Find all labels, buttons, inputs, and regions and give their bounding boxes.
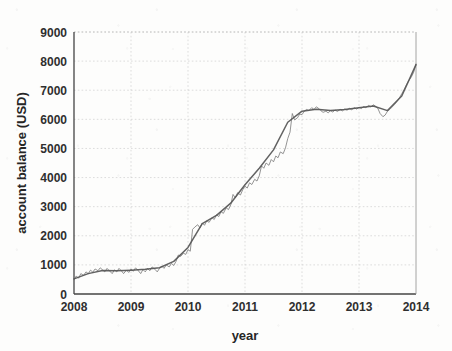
y-tick-label: 7000 bbox=[40, 84, 67, 98]
x-tick-label: 2013 bbox=[346, 300, 373, 314]
x-tick-label: 2012 bbox=[289, 300, 316, 314]
y-tick-label: 6000 bbox=[40, 113, 67, 127]
x-tick-label: 2008 bbox=[61, 300, 88, 314]
gridlines bbox=[74, 32, 416, 294]
y-tick-label: 1000 bbox=[40, 258, 67, 272]
y-axis-title: account balance (USD) bbox=[14, 92, 29, 234]
y-tick-label: 5000 bbox=[40, 142, 67, 156]
x-axis-tick-labels: 2008200920102011201220132014 bbox=[61, 300, 430, 314]
data-series-layer bbox=[74, 64, 416, 280]
x-tick-label: 2014 bbox=[403, 300, 430, 314]
y-tick-label: 2000 bbox=[40, 229, 67, 243]
chart-canvas: 2008200920102011201220132014 01000200030… bbox=[0, 0, 452, 351]
line-chart: 2008200920102011201220132014 01000200030… bbox=[0, 0, 452, 351]
y-tick-label: 8000 bbox=[40, 55, 67, 69]
x-axis-title: year bbox=[232, 328, 259, 343]
y-tick-label: 4000 bbox=[40, 171, 67, 185]
series-line-noisy bbox=[74, 64, 416, 280]
x-tick-label: 2011 bbox=[232, 300, 258, 314]
y-tick-label: 9000 bbox=[40, 26, 67, 40]
x-tick-label: 2009 bbox=[118, 300, 145, 314]
y-tick-label: 0 bbox=[60, 288, 67, 302]
y-axis-tick-labels: 0100020003000400050006000700080009000 bbox=[40, 26, 67, 302]
y-tick-label: 3000 bbox=[40, 200, 67, 214]
x-tick-label: 2010 bbox=[175, 300, 202, 314]
